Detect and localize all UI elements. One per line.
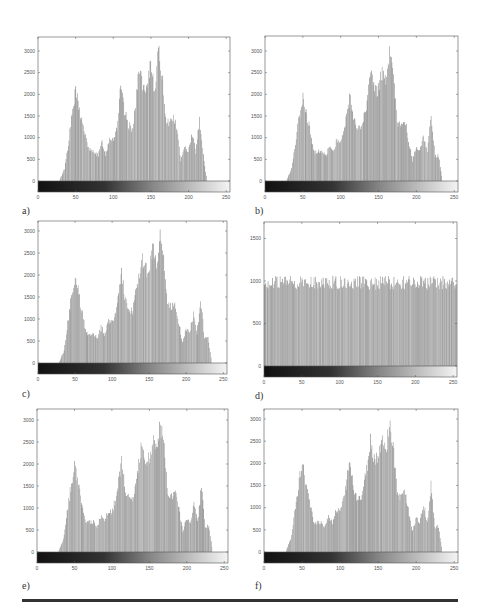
- panel-label-f: f): [255, 580, 262, 591]
- y-tick-label: 1500: [250, 482, 261, 488]
- y-tick-label: 1000: [250, 504, 261, 510]
- x-tick-label: 50: [299, 565, 305, 571]
- x-tick-label: 100: [336, 565, 345, 571]
- x-tick-label: 200: [412, 565, 421, 571]
- x-tick-label: 250: [450, 565, 459, 571]
- y-tick-label: 3000: [250, 416, 261, 422]
- x-tick-label: 150: [374, 565, 383, 571]
- grayscale-colorbar: [264, 552, 458, 563]
- histogram-plot-f: 050010001500200025003000050100150200250: [0, 0, 479, 608]
- x-tick-label: 0: [263, 565, 266, 571]
- y-tick-label: 0: [258, 549, 261, 555]
- bottom-rule-divider: [22, 599, 458, 602]
- y-tick-label: 2000: [250, 460, 261, 466]
- y-tick-label: 500: [253, 527, 262, 533]
- y-tick-label: 2500: [250, 438, 261, 444]
- histogram-bars: [286, 420, 442, 552]
